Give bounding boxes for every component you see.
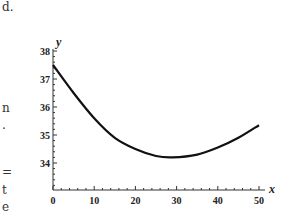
- x-tick-label: 30: [172, 195, 182, 206]
- y-axis-label: y: [54, 35, 62, 49]
- y-tick-label: 35: [40, 130, 50, 141]
- x-axis-label: x: [268, 182, 275, 196]
- y-tick-label: 37: [40, 74, 50, 85]
- y-tick-label: 36: [40, 102, 50, 113]
- x-tick-label: 10: [89, 195, 99, 206]
- line-chart: 010203040503435363738xy: [0, 0, 286, 218]
- y-tick-label: 38: [40, 46, 50, 57]
- data-line: [53, 65, 259, 157]
- y-tick-label: 34: [40, 158, 50, 169]
- x-tick-label: 40: [213, 195, 223, 206]
- x-tick-label: 0: [51, 195, 56, 206]
- x-tick-label: 50: [254, 195, 264, 206]
- x-tick-label: 20: [130, 195, 140, 206]
